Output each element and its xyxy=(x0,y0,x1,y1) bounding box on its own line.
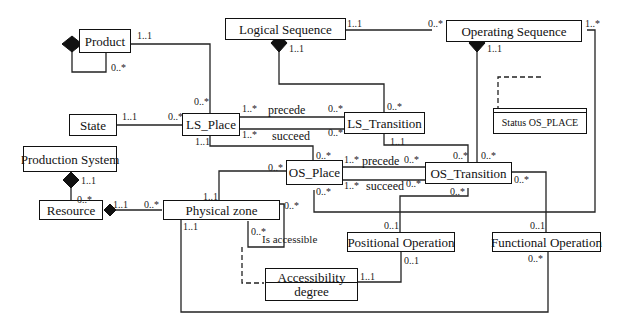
class-name: Positional Operation xyxy=(347,236,454,249)
multiplicity: 0..* xyxy=(404,155,419,165)
role-os-succeed: succeed xyxy=(366,180,404,192)
class-os-transition[interactable]: OS_Transition xyxy=(425,162,512,184)
multiplicity: 0..* xyxy=(450,187,465,197)
multiplicity: 1..1 xyxy=(390,137,405,147)
multiplicity: 1..1 xyxy=(81,176,96,186)
multiplicity: 1..1 xyxy=(203,192,218,202)
class-name: Physical zone xyxy=(186,204,258,217)
multiplicity: 1..1 xyxy=(113,200,128,210)
multiplicity: 0..* xyxy=(77,195,92,205)
multiplicity: 0..1 xyxy=(384,221,399,231)
multiplicity: 0..* xyxy=(428,19,443,29)
class-name: LS_Transition xyxy=(347,117,422,130)
multiplicity: 1..* xyxy=(242,130,257,140)
multiplicity: 0..* xyxy=(111,63,126,73)
status-osplace-dashed-link xyxy=(498,77,541,108)
multiplicity: 0..* xyxy=(316,187,331,197)
class-name-line1: Accessibility xyxy=(266,269,357,283)
multiplicity: 1..* xyxy=(344,181,359,191)
multiplicity: 1..1 xyxy=(122,112,137,122)
class-name: Logical Sequence xyxy=(239,23,332,36)
role-os-precede: precede xyxy=(362,155,399,167)
class-name: OS_Place xyxy=(289,166,340,179)
multiplicity: 1..1 xyxy=(487,44,502,54)
multiplicity: 1..1 xyxy=(137,31,152,41)
multiplicity: 1..1 xyxy=(360,272,375,282)
multiplicity: 1..1 xyxy=(347,19,362,29)
multiplicity: 0..* xyxy=(328,128,343,138)
multiplicity: 0..* xyxy=(406,179,421,189)
accdegree-dashed-link xyxy=(242,247,264,283)
multiplicity: 0..1 xyxy=(404,256,419,266)
class-name: OS_Transition xyxy=(430,167,506,180)
class-accessibility-degree[interactable]: Accessibility degree xyxy=(265,268,358,301)
class-product[interactable]: Product xyxy=(79,29,131,53)
physzone-osplace-association xyxy=(219,171,286,203)
class-name: Product xyxy=(85,35,125,48)
class-name: Status OS_PLACE xyxy=(494,113,586,128)
class-functional-operation[interactable]: Functional Operation xyxy=(492,232,601,252)
multiplicity: 1..* xyxy=(242,104,257,114)
prodsys-composition-diamond xyxy=(63,172,79,188)
role-ls-succeed: succeed xyxy=(272,130,310,142)
class-operating-sequence[interactable]: Operating Sequence xyxy=(446,20,582,42)
multiplicity: 0..* xyxy=(284,201,299,211)
multiplicity: 0..* xyxy=(528,254,543,264)
class-name: Functional Operation xyxy=(491,236,602,249)
multiplicity: 0..* xyxy=(316,151,331,161)
role-ls-precede: precede xyxy=(268,104,305,116)
class-name: Operating Sequence xyxy=(461,25,566,38)
class-state[interactable]: State xyxy=(69,114,117,136)
multiplicity: 0..* xyxy=(268,163,283,173)
class-ls-place[interactable]: LS_Place xyxy=(182,113,240,136)
uml-class-diagram: Product Logical Sequence Operating Seque… xyxy=(0,0,622,333)
multiplicity: 0..1 xyxy=(530,221,545,231)
multiplicity: 0..* xyxy=(251,227,266,237)
class-physical-zone[interactable]: Physical zone xyxy=(163,200,280,220)
role-is-accessible: Is accessible xyxy=(262,234,317,245)
class-positional-operation[interactable]: Positional Operation xyxy=(347,232,455,252)
multiplicity: 1..* xyxy=(585,19,600,29)
class-ls-transition[interactable]: LS_Transition xyxy=(344,112,425,134)
multiplicity: 0..* xyxy=(481,151,496,161)
class-name: Production System xyxy=(21,153,120,166)
multiplicity: 0..* xyxy=(168,112,183,122)
multiplicity: 0..* xyxy=(194,97,209,107)
multiplicity: 0..* xyxy=(514,175,529,185)
class-name-line2: degree xyxy=(266,283,357,298)
class-status-os-place[interactable]: Status OS_PLACE xyxy=(493,108,587,134)
class-os-place[interactable]: OS_Place xyxy=(286,160,343,185)
multiplicity: 0..* xyxy=(144,200,159,210)
multiplicity: 0..* xyxy=(387,102,402,112)
class-name: Resource xyxy=(47,204,95,217)
multiplicity: 0..* xyxy=(328,104,343,114)
multiplicity: 1..1 xyxy=(195,137,210,147)
multiplicity: 1..* xyxy=(344,155,359,165)
class-logical-sequence[interactable]: Logical Sequence xyxy=(225,18,346,40)
class-production-system[interactable]: Production System xyxy=(23,146,117,172)
class-name: State xyxy=(80,119,106,132)
multiplicity: 1..1 xyxy=(289,44,304,54)
class-resource[interactable]: Resource xyxy=(39,200,103,220)
multiplicity: 1..1 xyxy=(183,222,198,232)
class-name: LS_Place xyxy=(186,118,236,131)
multiplicity: 0..* xyxy=(453,151,468,161)
